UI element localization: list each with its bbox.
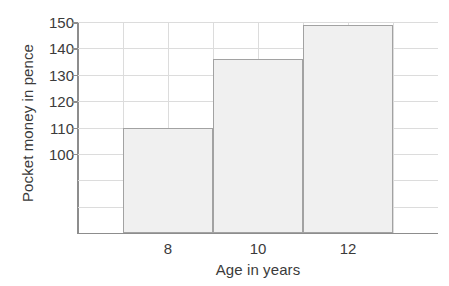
x-axis-tick-label: 12 xyxy=(340,240,357,257)
y-axis-tick-label: 110 xyxy=(50,119,74,136)
y-axis-tick-mark xyxy=(72,22,78,24)
bar xyxy=(123,128,213,234)
x-axis-title: Age in years xyxy=(78,261,438,278)
y-axis-tick-mark xyxy=(72,154,78,156)
x-axis-tick-label: 10 xyxy=(250,240,267,257)
plot-area xyxy=(78,22,438,233)
y-axis-tick-mark xyxy=(72,48,78,50)
y-axis-tick-label: 100 xyxy=(49,145,74,162)
y-axis-tick-label: 150 xyxy=(49,14,74,31)
x-axis-tick-labels: 81012 xyxy=(78,240,438,262)
x-axis-tick-label: 8 xyxy=(164,240,172,257)
y-axis-tick-label: 130 xyxy=(49,66,74,83)
gridline-vertical xyxy=(393,22,394,233)
bar xyxy=(213,59,303,233)
y-axis-tick-labels: 100110120130140150 xyxy=(36,22,74,233)
bar xyxy=(303,25,393,233)
bar-chart: Pocket money in pence 100110120130140150… xyxy=(0,0,449,286)
y-axis-tick-label: 120 xyxy=(49,93,74,110)
y-axis-tick-mark xyxy=(72,101,78,103)
y-axis-tick-mark xyxy=(72,128,78,130)
y-axis-tick-mark xyxy=(72,75,78,77)
y-axis-tick-label: 140 xyxy=(49,40,74,57)
